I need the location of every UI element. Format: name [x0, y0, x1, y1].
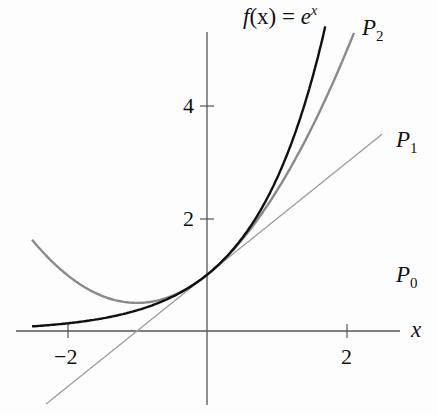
function-title: f(x) = ex: [243, 4, 317, 28]
title-e: e: [301, 4, 311, 29]
p0-label: P0: [396, 263, 418, 291]
p2-letter: P: [362, 15, 376, 40]
p1-letter: P: [396, 127, 410, 152]
p2-curve: [32, 33, 354, 303]
y-tick-label-4: 4: [183, 95, 194, 117]
x-axis-label: x: [411, 318, 421, 341]
title-rest: (x) =: [249, 4, 300, 29]
p0-subscript: 0: [410, 275, 418, 291]
y-tick-label-2: 2: [183, 208, 194, 230]
p1-subscript: 1: [410, 140, 418, 156]
p0-letter: P: [396, 262, 410, 287]
p1-label: P1: [396, 128, 418, 156]
x-tick-label-2: 2: [341, 346, 352, 368]
x-tick-label-neg2: −2: [54, 346, 77, 368]
p2-label: P2: [362, 16, 384, 44]
p2-subscript: 2: [376, 28, 384, 44]
taylor-polynomial-chart: f(x) = ex P2 P1 P0 x −2 2 2 4: [0, 0, 437, 415]
title-exponent: x: [311, 3, 317, 18]
